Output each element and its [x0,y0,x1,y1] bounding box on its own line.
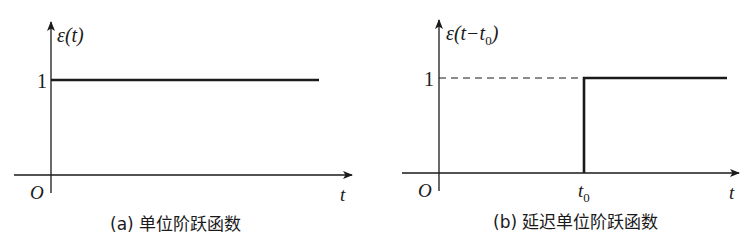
panel-a-x-label: t [340,184,346,205]
panel-a-caption: (a) 单位阶跃函数 [110,214,241,234]
panel-b-x-label: t [729,182,735,203]
panel-b-level-label: 1 [424,68,434,90]
panel-b-step-curve [584,78,727,173]
panel-b-caption: (b) 延迟单位阶跃函数 [493,212,658,232]
step-function-figure: ε(t) 1 O t (a) 单位阶跃函数 ε(t−t0) 1 O t0 t (… [0,0,753,247]
panel-a-unit-step: ε(t) 1 O t (a) 单位阶跃函数 [14,22,352,234]
panel-a-level-label: 1 [37,70,47,92]
panel-a-origin-label: O [30,182,44,203]
panel-b-y-label: ε(t−t0) [446,22,499,48]
panel-b-step-label: t0 [578,180,590,205]
panel-a-y-label: ε(t) [57,24,84,47]
panel-b-delayed-step: ε(t−t0) 1 O t0 t (b) 延迟单位阶跃函数 [402,20,739,232]
panel-b-origin-label: O [418,180,432,201]
